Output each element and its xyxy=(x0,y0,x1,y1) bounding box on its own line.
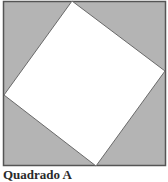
figure-caption: Quadrado A xyxy=(3,167,72,182)
square-a-diagram xyxy=(0,0,168,168)
